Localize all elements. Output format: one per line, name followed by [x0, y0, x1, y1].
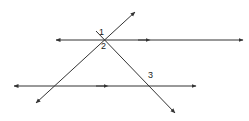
transversal-rising-stroke [36, 12, 135, 103]
angle-label-3: 3 [148, 71, 153, 80]
transversal-falling-stroke [96, 31, 175, 113]
geometry-diagram [0, 0, 249, 121]
angle-label-1: 1 [99, 28, 104, 37]
angle-label-2: 2 [101, 42, 106, 51]
transversal-rising [36, 12, 135, 103]
transversal-falling [96, 31, 175, 113]
geometry-figure: 1 2 3 [0, 0, 249, 121]
